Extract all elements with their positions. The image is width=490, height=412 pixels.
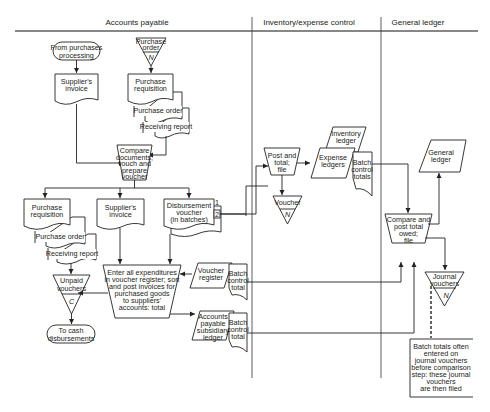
svg-text:N: N (148, 53, 154, 62)
compare-documents-operation[interactable]: Compare documents; vouch and prepare vou… (116, 145, 153, 181)
svg-text:Receiving report: Receiving report (140, 122, 192, 131)
svg-text:ledgers: ledgers (321, 160, 345, 169)
annotation-note: Batch totals often entered on journal vo… (410, 339, 473, 397)
svg-text:2: 2 (215, 210, 219, 219)
svg-text:C: C (69, 297, 75, 306)
svg-text:Receiving report: Receiving report (46, 249, 98, 258)
svg-text:invoice: invoice (109, 210, 131, 219)
lane-title-accounts-payable: Accounts payable (105, 18, 169, 27)
compare-and-post-operation[interactable]: Compare and post total owed; file (385, 214, 432, 245)
svg-text:disbursements: disbursements (48, 334, 95, 343)
svg-text:1: 1 (215, 198, 219, 207)
svg-text:requisition: requisition (134, 84, 167, 93)
svg-text:ledger: ledger (336, 136, 357, 145)
svg-text:order: order (143, 43, 160, 52)
voucher-file: Voucher N (273, 196, 302, 224)
voucher-register-io: Voucher register (190, 263, 232, 288)
svg-text:requisition: requisition (31, 210, 64, 219)
svg-text:are then filed: are then filed (420, 384, 462, 393)
svg-text:total: total (231, 283, 245, 292)
unpaid-vouchers-file: Unpaid vouchers C (53, 275, 90, 314)
purchase-documents-stack-mid: Purchase requisition Purchase order Rece… (24, 199, 98, 264)
svg-text:N: N (285, 210, 291, 219)
svg-text:ledger: ledger (203, 333, 224, 342)
suppliers-invoice-document-mid: Supplier's invoice (97, 199, 144, 229)
svg-text:Purchase order: Purchase order (133, 106, 183, 115)
svg-text:vouchers: vouchers (430, 279, 460, 288)
to-cash-disbursements-terminator: To cash disbursements (47, 325, 95, 343)
suppliers-invoice-document: Supplier's invoice (55, 74, 98, 104)
enter-expenditures-operation[interactable]: Enter all expenditures in voucher regist… (103, 265, 181, 318)
disbursement-voucher-document: Disbursement voucher (in batches) 1 2 (164, 198, 221, 237)
purchase-documents-stack-top: Purchase requisition Purchase order Rece… (128, 74, 192, 138)
svg-text:Voucher: Voucher (274, 198, 301, 207)
from-purchases-terminator: From purchases processing (51, 42, 103, 60)
svg-text:accounts: total: accounts: total (119, 303, 166, 312)
svg-text:processing: processing (59, 51, 94, 60)
svg-text:(in batches): (in batches) (170, 215, 208, 224)
svg-text:vouchers: vouchers (57, 284, 87, 293)
batch-control-totals-inv: Batch control totals (351, 152, 373, 196)
lane-title-general-ledger: General ledger (392, 18, 445, 27)
svg-text:file: file (404, 236, 413, 245)
post-and-total-operation[interactable]: Post and total; file (264, 148, 300, 175)
svg-text:Purchase order: Purchase order (35, 232, 85, 241)
svg-text:total: total (231, 332, 245, 341)
purchase-order-file: Purchase order N (136, 37, 166, 66)
general-ledger-io: General ledger (419, 140, 466, 172)
expense-ledgers-io: Expense ledgers (311, 148, 355, 178)
batch-control-total-2: Batch control total (227, 313, 249, 352)
svg-text:register: register (199, 273, 224, 282)
svg-text:N: N (443, 291, 449, 300)
svg-text:ledger: ledger (431, 155, 452, 164)
svg-text:invoice: invoice (65, 84, 87, 93)
batch-control-total-1: Batch control total (227, 264, 249, 300)
svg-text:file: file (277, 165, 286, 174)
svg-text:totals: totals (353, 172, 371, 181)
svg-text:voucher: voucher (122, 172, 148, 181)
lane-title-inventory: Inventory/expense control (263, 18, 355, 27)
